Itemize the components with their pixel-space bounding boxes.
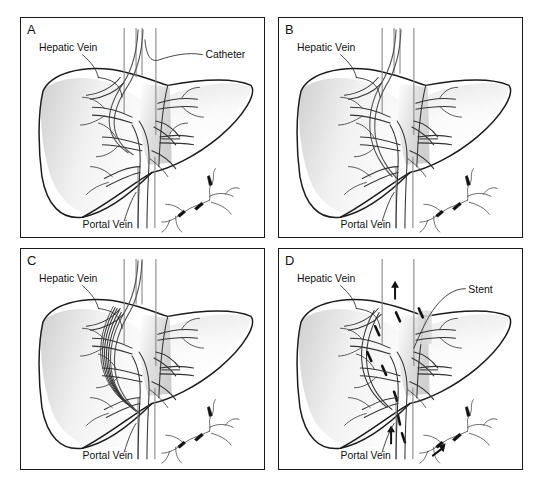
varices-a [162, 169, 239, 232]
panel-a-label-portal-vein: Portal Vein [83, 219, 133, 230]
varices-b [420, 169, 497, 232]
panel-b: B Hepatic Vein Portal Vein [278, 17, 523, 238]
panel-d: D Hepatic Vein Stent Portal Vein [278, 248, 523, 470]
panel-b-illustration: B Hepatic Vein Portal Vein [279, 18, 522, 237]
panel-d-label-portal-vein: Portal Vein [341, 450, 391, 461]
panel-a-label-hepatic-vein: Hepatic Vein [39, 42, 98, 53]
panel-c-letter: C [27, 253, 36, 268]
panel-d-illustration: D Hepatic Vein Stent Portal Vein [279, 249, 522, 469]
varices-d [420, 400, 497, 463]
varices-c [162, 400, 239, 463]
panel-a-letter: A [27, 22, 36, 37]
panel-a-label-catheter: Catheter [205, 49, 245, 60]
panel-c-label-portal-vein: Portal Vein [83, 450, 133, 461]
panel-c-illustration: C Hepatic Vein Portal Vein [21, 249, 264, 469]
panel-b-label-portal-vein: Portal Vein [341, 219, 391, 230]
panel-c-label-hepatic-vein: Hepatic Vein [39, 273, 98, 284]
panel-a: A Hepatic Vein Catheter Portal Vein [20, 17, 265, 238]
panel-d-label-hepatic-vein: Hepatic Vein [297, 273, 356, 284]
panel-d-letter: D [285, 253, 294, 268]
flow-arrow-upper-icon [391, 281, 399, 300]
panel-c: C Hepatic Vein Portal Vein [20, 248, 265, 470]
panel-b-label-hepatic-vein: Hepatic Vein [297, 42, 356, 53]
figure-root: A Hepatic Vein Catheter Portal Vein [0, 0, 558, 485]
panel-d-label-stent: Stent [468, 284, 492, 295]
panel-b-letter: B [285, 22, 294, 37]
panel-a-illustration: A Hepatic Vein Catheter Portal Vein [21, 18, 264, 237]
